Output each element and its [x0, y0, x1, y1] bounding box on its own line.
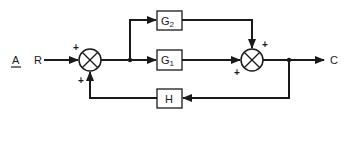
block-diagram: A R + + G2 G1 + + C: [0, 0, 347, 141]
sign-right-left: +: [234, 67, 240, 78]
block-h-label: H: [165, 93, 173, 105]
branch-to-g2: [130, 20, 156, 60]
panel-label-text: A: [12, 54, 20, 66]
summing-junction-left: [79, 49, 101, 71]
g2-to-sum-wire: [182, 20, 252, 48]
block-h: H: [157, 89, 182, 108]
panel-label: A: [11, 54, 21, 67]
h-to-sum-wire: [90, 72, 157, 98]
block-g2: G2: [157, 11, 182, 30]
input-label-r: R: [34, 54, 42, 66]
sign-left-feedback: +: [78, 75, 84, 86]
feedback-to-h-wire: [183, 60, 289, 98]
output-label-c: C: [330, 54, 338, 66]
sign-left-input: +: [73, 42, 79, 53]
block-g1: G1: [157, 50, 182, 70]
summing-junction-right: [241, 49, 263, 71]
sign-right-top: +: [262, 39, 268, 50]
